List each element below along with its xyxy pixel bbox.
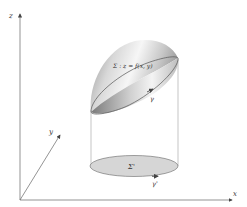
z-axis-label: z: [8, 12, 13, 20]
projection-label: Σ': [127, 163, 135, 171]
y-axis-label: y: [48, 128, 54, 136]
surface-boundary-label: γ: [150, 95, 154, 103]
projection-region: Σ' γ': [90, 156, 178, 189]
y-axis: [20, 135, 60, 200]
surface: γ Σ : z = f(x, y): [91, 40, 179, 114]
projection-boundary-label: γ': [152, 180, 158, 188]
surface-projection-diagram: z x y Σ' γ' γ Σ : z = f(x, y): [0, 0, 247, 207]
x-axis-label: x: [233, 190, 237, 198]
surface-label: Σ : z = f(x, y): [112, 62, 153, 70]
